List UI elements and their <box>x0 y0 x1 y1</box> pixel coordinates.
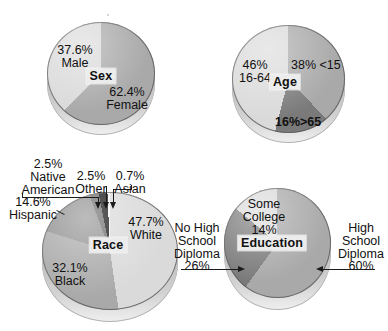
white-name: White <box>118 229 174 242</box>
pie-race-slice-label-black: 32.1% Black <box>42 262 98 288</box>
hs-line1: High <box>335 222 387 235</box>
white-pct: 47.7% <box>118 216 174 229</box>
college-line1: Some <box>240 198 288 211</box>
college-pct: 14% <box>240 224 288 237</box>
pie-sex-slice-label-male: 37.6% Male <box>46 44 104 70</box>
female-pct: 62.4% <box>96 86 158 99</box>
native-pct: 2.5% <box>13 158 83 171</box>
scan-speck <box>107 14 109 16</box>
leader-asian-horizontal <box>113 189 131 190</box>
pie-race-slice-label-asian: 0.7% Asian <box>110 170 150 196</box>
black-name: Black <box>42 275 98 288</box>
leader-asian-stem-left <box>113 189 114 203</box>
pie-age-slice-label-under15: 38% <15 <box>291 59 341 72</box>
asian-pct: 0.7% <box>110 170 150 183</box>
hs-pct: 60% <box>335 260 387 273</box>
leader-nohs-arrow <box>238 266 245 272</box>
male-pct: 37.6% <box>46 44 104 57</box>
pie-race-title: Race <box>90 238 127 253</box>
leader-nohs-line <box>181 269 239 270</box>
age-mid-pct: 46% <box>229 59 281 72</box>
pie-race-slice-label-other: 2.5% Other <box>72 170 110 196</box>
leader-other-arrow <box>103 202 109 209</box>
leader-native-stem-left <box>22 193 23 198</box>
leader-native-horizontal <box>22 197 98 198</box>
hs-line2: School <box>335 235 387 248</box>
pie-race-slice-label-hispanic: 14.6% Hispanic <box>2 196 64 222</box>
pie-race-slice-label-white: 47.7% White <box>118 216 174 242</box>
pie-education-slice-label-hs: High School Diploma 60% <box>335 222 387 273</box>
nohs-line2: School <box>168 235 226 248</box>
pie-sex-title: Sex <box>87 69 116 84</box>
pie-education-title: Education <box>238 236 306 251</box>
hispanic-name: Hispanic <box>2 209 64 222</box>
leader-native-arrow <box>95 202 101 209</box>
black-pct: 32.1% <box>42 262 98 275</box>
nohs-line1: No High <box>168 222 226 235</box>
nohs-pct: 26% <box>168 260 226 273</box>
pie-age-title: Age <box>270 75 300 90</box>
pie-age-slice-label-over65: 16%>65 <box>275 116 321 129</box>
leader-hs-arrow <box>316 266 323 272</box>
leader-other-stem <box>106 186 107 203</box>
other-name: Other <box>72 183 110 196</box>
pie-education-slice-label-nohs: No High School Diploma 26% <box>168 222 226 273</box>
leader-asian-arrow <box>110 202 116 209</box>
other-pct: 2.5% <box>72 170 110 183</box>
pie-sex-slice-label-female: 62.4% Female <box>96 86 158 112</box>
female-name: Female <box>96 99 158 112</box>
pie-education-slice-label-college: Some College 14% <box>240 198 288 236</box>
leader-hs-line <box>323 269 375 270</box>
leader-asian-stem-right <box>131 185 132 190</box>
college-line2: College <box>240 211 288 224</box>
figure-canvas: 37.6% Male 62.4% Female Sex 38% <15 46% … <box>0 0 388 331</box>
